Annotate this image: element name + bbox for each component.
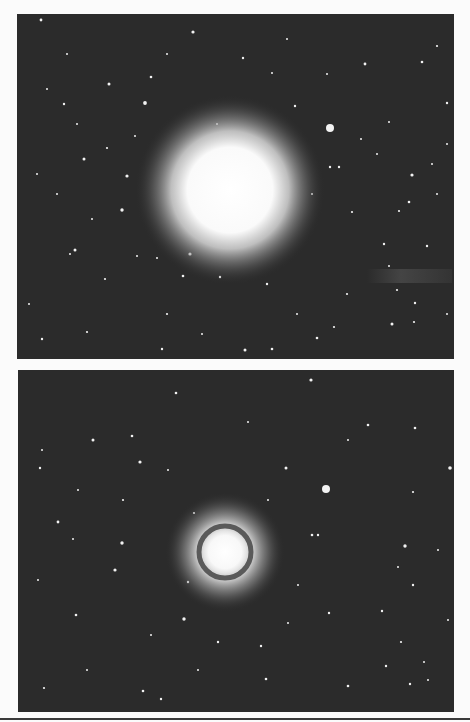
star [86, 331, 88, 333]
star [77, 489, 79, 491]
star [436, 193, 438, 195]
star [383, 243, 385, 245]
star [191, 30, 194, 33]
star [346, 293, 348, 295]
galaxy-core [203, 530, 247, 574]
star [436, 45, 438, 47]
star [437, 549, 439, 551]
star [326, 73, 328, 75]
star [412, 584, 414, 586]
star [446, 143, 448, 145]
star [69, 253, 71, 255]
star [39, 467, 41, 469]
star [36, 173, 38, 175]
star [388, 265, 390, 267]
star [125, 174, 128, 177]
star [446, 313, 448, 315]
star [309, 378, 312, 381]
star [403, 544, 406, 547]
star [72, 538, 74, 540]
star [108, 83, 111, 86]
star [40, 19, 43, 22]
star [385, 665, 387, 667]
star [46, 88, 48, 90]
star [271, 72, 273, 74]
star [287, 622, 289, 624]
star [122, 499, 124, 501]
star [182, 617, 185, 620]
star [360, 138, 362, 140]
star [136, 255, 138, 257]
star [197, 669, 199, 671]
star [398, 210, 400, 212]
star [297, 584, 299, 586]
star [37, 579, 39, 581]
star [426, 245, 428, 247]
star [367, 424, 370, 427]
star [421, 61, 424, 64]
star [143, 101, 147, 105]
star [83, 158, 86, 161]
star [75, 614, 78, 617]
star [247, 421, 249, 423]
star [201, 333, 203, 335]
elliptical-galaxy [135, 95, 325, 285]
star [391, 323, 394, 326]
star [92, 439, 95, 442]
star [423, 661, 425, 663]
star [446, 102, 448, 104]
star [412, 491, 414, 493]
galaxy-photo-top [17, 14, 454, 359]
star [166, 53, 168, 55]
star [333, 326, 335, 328]
star [265, 678, 268, 681]
star [431, 163, 433, 165]
star [260, 645, 262, 647]
star [364, 63, 367, 66]
star-field-top [17, 14, 454, 359]
star [113, 568, 116, 571]
star [28, 303, 30, 305]
star [56, 193, 58, 195]
star-field-bottom [18, 370, 454, 712]
star [175, 392, 178, 395]
star [244, 349, 247, 352]
star [427, 679, 429, 681]
star [266, 283, 268, 285]
star [74, 249, 77, 252]
star [41, 338, 43, 340]
star [413, 321, 415, 323]
star [338, 166, 340, 168]
star [182, 275, 185, 278]
star [242, 57, 244, 59]
star [41, 449, 43, 451]
star [160, 698, 162, 700]
star [296, 313, 298, 315]
star [120, 541, 123, 544]
star [76, 123, 78, 125]
star [396, 289, 398, 291]
star [134, 135, 136, 137]
star [311, 534, 314, 537]
star [142, 690, 145, 693]
star [410, 173, 413, 176]
star [414, 302, 416, 304]
star [328, 612, 330, 614]
star [156, 257, 158, 259]
star [161, 348, 163, 350]
star [294, 105, 296, 107]
star [376, 153, 378, 155]
page-bottom-rule [0, 718, 470, 720]
star [138, 460, 141, 463]
star [448, 466, 452, 470]
star [409, 683, 411, 685]
star [106, 147, 108, 149]
star [63, 103, 65, 105]
star [447, 619, 449, 621]
star [120, 208, 123, 211]
star [150, 634, 152, 636]
star [167, 469, 169, 471]
star [397, 566, 399, 568]
star [347, 685, 350, 688]
star [131, 435, 134, 438]
